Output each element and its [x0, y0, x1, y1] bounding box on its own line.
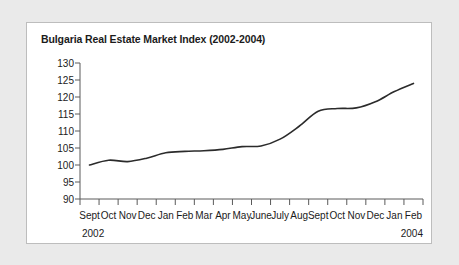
y-axis-tick-label: 90 — [63, 194, 75, 205]
x-axis-tick-labels: SeptOctNovDecJanFebMarAprMayJuneJulyAugS… — [79, 210, 422, 221]
x-axis-tick-label: Feb — [176, 210, 194, 221]
x-axis-tick-label: Jan — [158, 210, 174, 221]
x-axis-tick-label: Oct — [101, 210, 117, 221]
x-axis-tick-label: Nov — [119, 210, 137, 221]
x-axis-tick-label: Mar — [195, 210, 213, 221]
y-axis-tick-label: 100 — [57, 160, 74, 171]
chart-panel: Bulgaria Real Estate Market Index (2002-… — [26, 22, 432, 244]
y-axis-tick-label: 110 — [58, 126, 74, 137]
y-axis-tick-label: 130 — [57, 58, 74, 69]
y-axis-tick-labels: 9095100105110115120125130 — [57, 58, 74, 205]
x-axis-tick-label: Nov — [347, 210, 365, 221]
y-axis-ticks — [75, 63, 80, 199]
x-axis-tick-label: Dec — [366, 210, 384, 221]
x-axis-tick-label: Sept — [308, 210, 329, 221]
x-axis-tick-label: May — [233, 210, 252, 221]
x-axis-tick-label: Apr — [215, 210, 231, 221]
x-axis-tick-label: Feb — [405, 210, 423, 221]
x-axis-tick-label: June — [250, 210, 272, 221]
x-axis-start-year: 2002 — [82, 228, 105, 239]
x-axis-tick-label: Dec — [138, 210, 156, 221]
x-axis-tick-label: July — [271, 210, 289, 221]
x-axis-ticks — [80, 199, 423, 205]
y-axis-tick-label: 115 — [58, 109, 74, 120]
y-axis-tick-label: 120 — [57, 92, 74, 103]
x-axis-tick-label: Oct — [329, 210, 345, 221]
chart-plot-area: 9095100105110115120125130 SeptOctNovDecJ… — [27, 23, 433, 245]
y-axis-tick-label: 125 — [57, 75, 74, 86]
index-series-line — [90, 83, 414, 165]
x-axis-tick-label: Sept — [79, 210, 100, 221]
line-chart: 9095100105110115120125130 SeptOctNovDecJ… — [27, 23, 433, 245]
x-axis-tick-label: Jan — [386, 210, 402, 221]
x-axis-tick-label: Aug — [290, 210, 308, 221]
y-axis-tick-label: 105 — [57, 143, 74, 154]
y-axis-tick-label: 95 — [63, 177, 75, 188]
x-axis-end-year: 2004 — [401, 228, 424, 239]
